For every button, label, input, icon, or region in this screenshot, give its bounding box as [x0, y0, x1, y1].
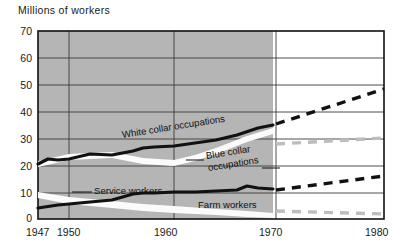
annotation-service-workers: Service workers [94, 186, 162, 196]
annotation-farm-workers: Farm workers [198, 200, 257, 210]
chart-container: Millions of workers 70 60 50 40 30 20 10… [0, 0, 408, 249]
projection-region [276, 31, 384, 219]
